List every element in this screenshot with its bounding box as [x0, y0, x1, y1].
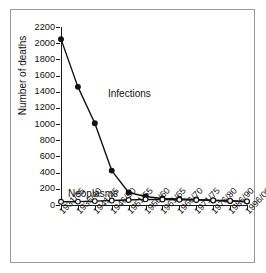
y-axis-tick-label: 1400: [35, 87, 55, 96]
y-axis-tick-mark: [56, 92, 60, 93]
figure-container: Number of deaths 22002000180016001400120…: [0, 0, 266, 273]
y-axis-tick-mark: [56, 59, 60, 60]
y-axis-tick-mark: [56, 27, 60, 28]
data-point: [177, 197, 182, 202]
y-axis-tick-mark: [56, 108, 60, 109]
y-axis-tick-label: 1800: [35, 55, 55, 64]
data-point: [194, 198, 199, 203]
y-axis-tick-label: 400: [40, 168, 55, 177]
y-axis-tick-label: 800: [40, 136, 55, 145]
data-point: [245, 199, 250, 204]
data-point: [59, 37, 64, 42]
series-line-infections: [61, 39, 247, 201]
data-point: [59, 199, 64, 204]
data-point: [160, 197, 165, 202]
y-axis-tick-mark: [56, 189, 60, 190]
y-axis-tick-label: 200: [40, 184, 55, 193]
data-point: [76, 199, 81, 204]
series-label-neoplasms: Neoplasms: [68, 188, 118, 199]
y-axis-tick-mark: [56, 140, 60, 141]
data-point: [76, 84, 81, 89]
data-point: [109, 168, 114, 173]
y-axis-tick-mark: [56, 76, 60, 77]
y-axis-tick-labels: 2200200018001600140012001000800600400200…: [22, 27, 55, 206]
data-point: [228, 198, 233, 203]
data-point: [92, 121, 97, 126]
data-point: [92, 199, 97, 204]
y-axis-tick-mark: [56, 124, 60, 125]
data-point: [211, 198, 216, 203]
data-point: [126, 198, 131, 203]
y-axis-tick-mark: [56, 173, 60, 174]
y-axis-tick-label: 600: [40, 152, 55, 161]
x-axis-tick-labels: 1931/351936/401941/451946/501951/551956/…: [0, 206, 266, 268]
y-axis-tick-label: 2200: [35, 23, 55, 32]
y-axis-tick-label: 1600: [35, 71, 55, 80]
data-point: [126, 190, 131, 195]
data-series-layer: [61, 27, 247, 205]
y-axis-tick-label: 1200: [35, 103, 55, 112]
y-axis-tick-mark: [56, 156, 60, 157]
plot-area: [61, 27, 247, 205]
series-label-infections: Infections: [108, 88, 151, 99]
y-axis-tick-label: 1000: [35, 120, 55, 129]
y-axis-tick-label: 2000: [35, 39, 55, 48]
y-axis-tick-mark: [56, 43, 60, 44]
data-point: [143, 197, 148, 202]
